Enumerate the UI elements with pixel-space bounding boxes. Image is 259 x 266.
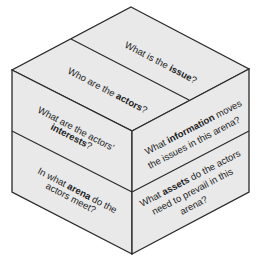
cube-diagram: What is the issue? Who are the actors? W…: [0, 0, 259, 266]
